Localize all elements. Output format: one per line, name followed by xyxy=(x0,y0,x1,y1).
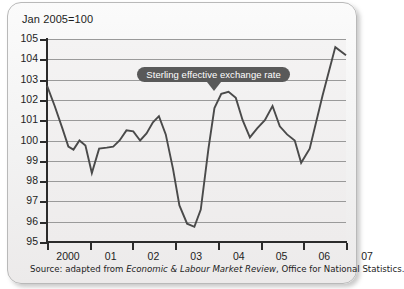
x-axis-tick xyxy=(132,243,134,250)
y-axis-tick-label: 101 xyxy=(14,113,38,125)
y-axis-tick xyxy=(40,39,47,41)
y-axis-tick-label: 99 xyxy=(14,154,38,166)
y-axis-tick-label: 96 xyxy=(14,215,38,227)
y-axis-tick-label: 102 xyxy=(14,93,38,105)
y-axis-tick-label: 105 xyxy=(14,32,38,44)
y-axis-tick-label: 103 xyxy=(14,73,38,85)
y-axis-tick xyxy=(40,100,47,102)
y-axis-tick xyxy=(40,80,47,82)
x-axis-tick-label: 07 xyxy=(361,250,373,262)
y-axis-tick-label: 95 xyxy=(14,235,38,247)
y-axis-tick xyxy=(40,181,47,183)
y-axis-tick xyxy=(40,120,47,122)
y-axis-tick xyxy=(40,59,47,61)
source-publication: Economic & Labour Market Review xyxy=(126,264,276,274)
y-axis-tick xyxy=(40,242,47,244)
x-axis-tick-label: 2000 xyxy=(56,250,79,262)
x-axis-tick-label: 06 xyxy=(318,250,330,262)
x-axis-tick-label: 03 xyxy=(190,250,202,262)
y-axis-tick-label: 104 xyxy=(14,52,38,64)
y-axis-tick xyxy=(40,141,47,143)
x-axis-tick xyxy=(175,243,177,250)
y-axis-tick xyxy=(40,222,47,224)
callout-text: Sterling effective exchange rate xyxy=(146,69,281,80)
x-axis-tick-label: 05 xyxy=(276,250,288,262)
x-axis-tick xyxy=(261,243,263,250)
y-axis-tick xyxy=(40,161,47,163)
x-axis-tick xyxy=(303,243,305,250)
y-axis-labels: 1051041031021011009998979695 xyxy=(10,0,38,289)
x-axis-tick xyxy=(47,243,49,250)
source-note: Source: adapted from Economic & Labour M… xyxy=(30,264,404,274)
y-axis-tick-label: 100 xyxy=(14,134,38,146)
x-axis-tick-label: 02 xyxy=(148,250,160,262)
y-axis-tick xyxy=(40,201,47,203)
y-axis-tick-label: 98 xyxy=(14,174,38,186)
x-axis-tick xyxy=(90,243,92,250)
x-axis-tick-label: 04 xyxy=(233,250,245,262)
callout-label: Sterling effective exchange rate xyxy=(137,67,290,82)
x-axis-tick xyxy=(346,243,348,250)
source-prefix: Source: adapted from xyxy=(30,264,126,274)
source-suffix: , Office for National Statistics. xyxy=(276,264,404,274)
y-axis-tick-label: 97 xyxy=(14,194,38,206)
x-axis-tick xyxy=(218,243,220,250)
callout-pointer-icon xyxy=(207,82,221,91)
x-axis-tick-label: 01 xyxy=(105,250,117,262)
